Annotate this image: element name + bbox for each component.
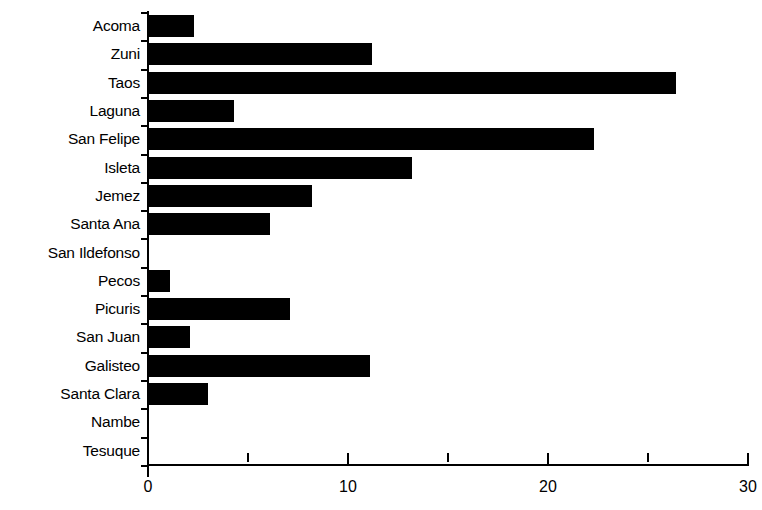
- x-axis-tick-label: 0: [144, 478, 153, 496]
- chart-row: Isleta: [148, 154, 748, 182]
- y-axis-tick: [141, 323, 148, 325]
- chart-row: San Ildefonso: [148, 238, 748, 266]
- bar: [148, 383, 208, 405]
- bar-chart: AcomaZuniTaosLagunaSan FelipeIsletaJemez…: [0, 0, 762, 510]
- x-axis-end-cap: [747, 453, 749, 466]
- chart-row: Galisteo: [148, 352, 748, 380]
- bar: [148, 213, 270, 235]
- chart-row: Santa Clara: [148, 380, 748, 408]
- bar: [148, 100, 234, 122]
- y-axis-tick-label: Jemez: [2, 187, 140, 205]
- bar: [148, 72, 676, 94]
- y-axis-tick: [141, 182, 148, 184]
- chart-row: Nambe: [148, 408, 748, 436]
- y-axis-tick-label: Zuni: [2, 45, 140, 63]
- chart-row: San Felipe: [148, 125, 748, 153]
- y-axis-tick: [141, 97, 148, 99]
- y-axis-tick-label: Santa Clara: [2, 385, 140, 403]
- chart-row: Pecos: [148, 267, 748, 295]
- bar: [148, 355, 370, 377]
- y-axis-tick-label: Galisteo: [2, 357, 140, 375]
- bar: [148, 270, 170, 292]
- y-axis-tick-label: Picuris: [2, 300, 140, 318]
- y-axis-tick-label: Santa Ana: [2, 215, 140, 233]
- bar: [148, 15, 194, 37]
- y-axis-tick-label: San Ildefonso: [2, 244, 140, 262]
- bar: [148, 128, 594, 150]
- y-axis-tick-label: Taos: [2, 74, 140, 92]
- chart-row: Zuni: [148, 40, 748, 68]
- x-axis-tick-label: 10: [339, 478, 357, 496]
- chart-row: Laguna: [148, 97, 748, 125]
- y-axis-tick: [141, 352, 148, 354]
- bar: [148, 326, 190, 348]
- y-axis-tick: [141, 154, 148, 156]
- y-axis-tick: [141, 12, 148, 14]
- y-axis-tick: [141, 210, 148, 212]
- x-axis-major-tick: [547, 453, 549, 466]
- y-axis-tick: [141, 295, 148, 297]
- x-axis-minor-tick: [247, 453, 249, 462]
- y-axis-tick: [141, 437, 148, 439]
- y-axis-tick: [141, 408, 148, 410]
- x-axis-major-tick: [347, 453, 349, 466]
- y-axis-tick: [141, 238, 148, 240]
- chart-row: Taos: [148, 69, 748, 97]
- x-axis-minor-tick: [647, 453, 649, 462]
- y-axis-tick: [141, 267, 148, 269]
- y-axis-tick-label: Pecos: [2, 272, 140, 290]
- chart-row: Acoma: [148, 12, 748, 40]
- chart-row: San Juan: [148, 323, 748, 351]
- y-axis-tick: [141, 380, 148, 382]
- y-axis-tick-label: San Juan: [2, 328, 140, 346]
- chart-row: Santa Ana: [148, 210, 748, 238]
- x-axis-major-tick: [147, 453, 149, 466]
- y-axis-tick-label: Isleta: [2, 159, 140, 177]
- bar: [148, 185, 312, 207]
- bar: [148, 43, 372, 65]
- chart-row: Picuris: [148, 295, 748, 323]
- x-axis-minor-tick: [447, 453, 449, 462]
- y-axis-tick-label: Nambe: [2, 413, 140, 431]
- chart-row: Jemez: [148, 182, 748, 210]
- y-axis-tick: [141, 40, 148, 42]
- plot-area: AcomaZuniTaosLagunaSan FelipeIsletaJemez…: [148, 12, 748, 465]
- y-axis-tick-label: Laguna: [2, 102, 140, 120]
- y-axis-tick: [141, 69, 148, 71]
- x-axis-tick-label: 20: [539, 478, 557, 496]
- y-axis-tick-label: San Felipe: [2, 130, 140, 148]
- bar: [148, 298, 290, 320]
- x-axis-tick-label: 30: [739, 478, 757, 496]
- bar: [148, 157, 412, 179]
- y-axis-tick: [141, 125, 148, 127]
- y-axis-tick-label: Acoma: [2, 17, 140, 35]
- y-axis-tick-label: Tesuque: [2, 442, 140, 460]
